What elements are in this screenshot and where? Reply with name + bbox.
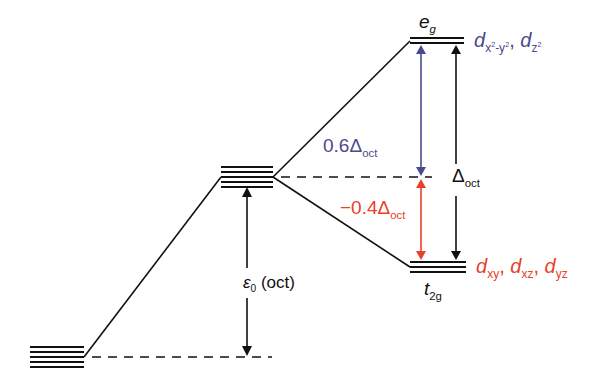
d-symbol-2: d — [520, 29, 531, 51]
crystal-field-diagram: eg t2g dx2-y2, dz2 dxy, dxz, dyz 0.6Δoct… — [0, 0, 604, 381]
free-ion-level — [30, 347, 84, 367]
barycenter-level — [221, 167, 273, 187]
d-symbol-2: d — [510, 255, 521, 277]
diagram-graphics — [0, 0, 604, 381]
eg-label: eg — [419, 12, 436, 31]
coef: −0.4 — [340, 197, 378, 218]
d-symbol: d — [476, 255, 487, 277]
d-symbol: d — [474, 29, 485, 51]
d-symbol-3: d — [545, 255, 556, 277]
eg-main: e — [419, 11, 430, 32]
eg-orbitals-label: dx2-y2, dz2 — [474, 30, 541, 50]
coef: 0.6 — [323, 135, 349, 156]
t2g-shift-label: −0.4Δoct — [340, 198, 405, 217]
eg-level — [410, 38, 464, 43]
t2g-label: t2g — [424, 279, 442, 298]
delta-oct-label: Δoct — [451, 166, 481, 185]
sup-z2: 2 — [537, 40, 541, 49]
sub-xy: xy — [487, 267, 499, 281]
sub-oct: oct — [465, 177, 480, 189]
separator: , — [509, 29, 520, 51]
sub-xz: xz — [521, 267, 533, 281]
eg-shift-label: 0.6Δoct — [323, 136, 377, 155]
sub-oct: oct — [390, 209, 405, 221]
delta-symbol: Δ — [378, 197, 391, 218]
delta-symbol: Δ — [452, 165, 465, 186]
t2g-orbitals-label: dxy, dxz, dyz — [476, 256, 568, 276]
sub-y: -y — [495, 41, 505, 55]
oct-text: (oct) — [256, 273, 295, 292]
separator-1: , — [499, 255, 510, 277]
t2g-level — [410, 262, 466, 272]
eg-sub: g — [430, 23, 436, 35]
epsilon-label: ε0 (oct) — [243, 274, 295, 291]
sub-oct: oct — [362, 147, 377, 159]
delta-symbol: Δ — [349, 135, 362, 156]
separator-2: , — [533, 255, 544, 277]
t2g-sub: 2g — [429, 290, 442, 302]
sub-yz: yz — [556, 267, 568, 281]
